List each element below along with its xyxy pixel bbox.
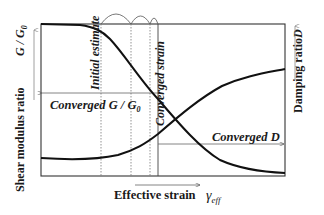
x-axis-symbol: γeff bbox=[206, 188, 222, 205]
y-axis-left-symbol: G / G0 bbox=[13, 25, 29, 56]
equivalent-linear-iteration-diagram: Initial estimate Converged strain Conver… bbox=[0, 0, 324, 215]
converged-g-label: Converged G / G0 bbox=[50, 98, 140, 114]
y-axis-left-label: Shear modulus ratio bbox=[13, 88, 27, 192]
iteration-arc-3 bbox=[150, 18, 158, 24]
converged-d-label: Converged D bbox=[212, 130, 280, 144]
iteration-arc-2 bbox=[131, 16, 150, 24]
x-axis-label: Effective strain bbox=[114, 188, 196, 202]
iteration-arc-1 bbox=[101, 14, 131, 24]
initial-estimate-label: Initial estimate bbox=[88, 15, 102, 91]
converged-strain-label: Converged strain bbox=[153, 41, 167, 126]
y-axis-right-symbol: D bbox=[291, 29, 305, 39]
y-axis-right-label: Damping ratio bbox=[291, 38, 305, 113]
